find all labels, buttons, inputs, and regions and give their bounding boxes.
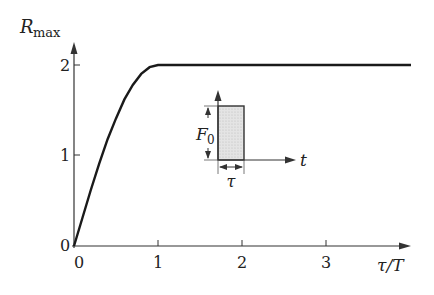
f0-dim-arrow-up-icon xyxy=(205,107,211,115)
f0-dim-arrow-down-icon xyxy=(205,151,211,159)
y-axis xyxy=(71,42,78,248)
inset-pulse-diagram: F 0 τ t xyxy=(195,90,307,191)
x-tick-label-1: 1 xyxy=(153,253,163,272)
x-axis-arrow-icon xyxy=(399,243,411,250)
inset-duration-label: τ xyxy=(227,172,237,191)
inset-t-axis-arrow-icon xyxy=(285,157,296,164)
chart: 0 1 2 0 1 2 3 R max τ/T F 0 τ t xyxy=(0,0,434,295)
tau-dim-arrow-right-icon xyxy=(235,164,243,170)
y-axis-arrow-icon xyxy=(71,42,78,54)
x-tick-label-3: 3 xyxy=(321,253,331,272)
y-ticks xyxy=(74,65,80,155)
x-tick-label-2: 2 xyxy=(237,253,247,272)
y-tick-label-2: 2 xyxy=(60,56,70,75)
inset-amplitude-sub: 0 xyxy=(207,133,215,147)
y-axis-label: R max xyxy=(19,16,61,40)
x-axis-label: τ/T xyxy=(377,255,405,275)
x-ticks xyxy=(158,240,326,246)
inset-vertical-arrow-icon xyxy=(215,90,222,101)
inset-time-axis-label: t xyxy=(300,150,307,170)
pulse-rectangle xyxy=(218,106,244,160)
tau-dim-arrow-left-icon xyxy=(219,164,227,170)
y-tick-label-0: 0 xyxy=(60,236,70,255)
y-axis-label-main: R xyxy=(19,16,34,37)
y-axis-label-sub: max xyxy=(33,25,61,40)
x-tick-label-0: 0 xyxy=(74,253,84,272)
y-tick-label-1: 1 xyxy=(60,146,70,165)
